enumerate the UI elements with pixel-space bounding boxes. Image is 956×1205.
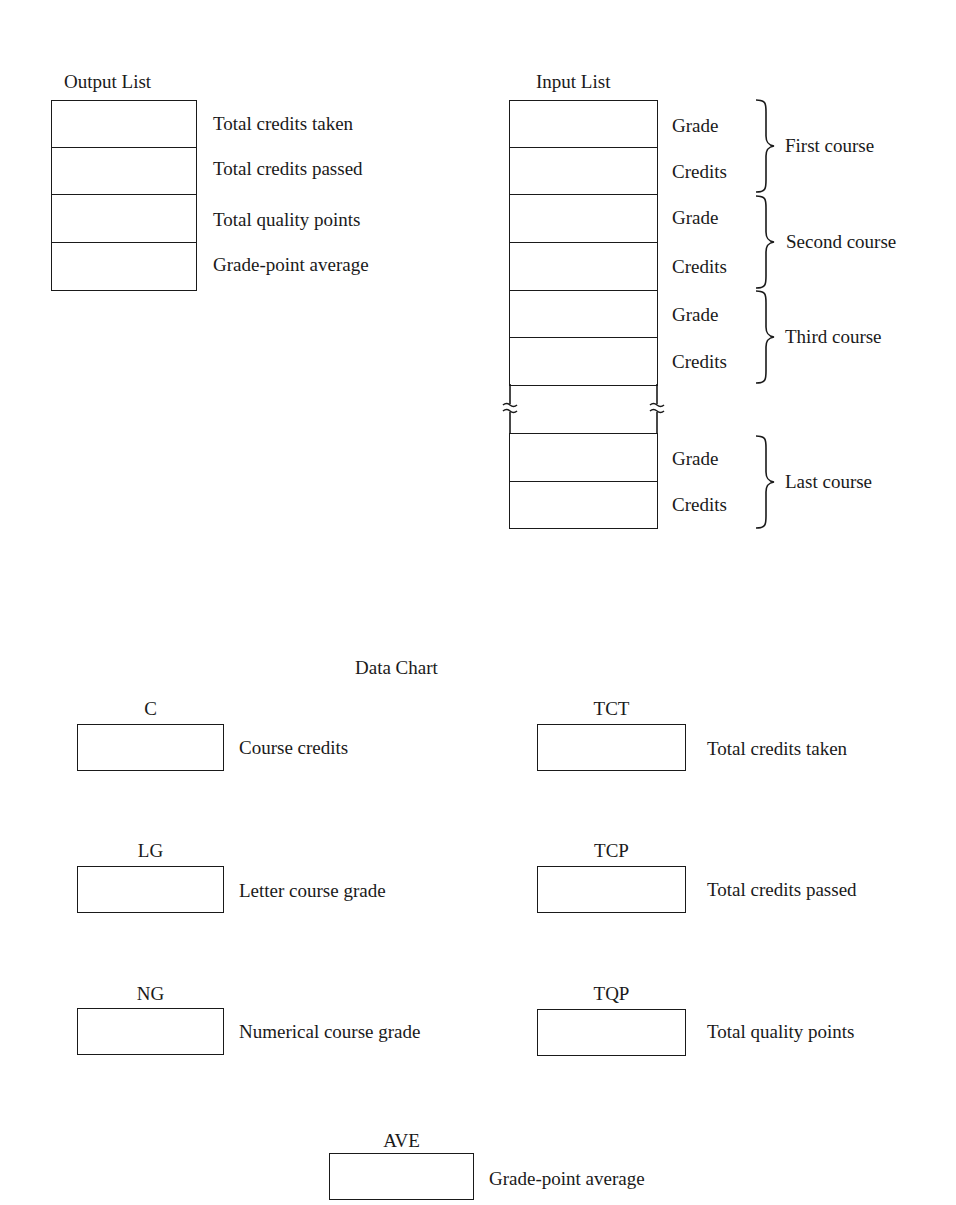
variable-name: TQP xyxy=(537,983,686,1005)
variable-name: TCT xyxy=(537,698,686,720)
output-cell-total-credits-passed xyxy=(51,147,197,195)
input-field-label: Grade xyxy=(672,304,718,326)
variable-box-lg xyxy=(77,866,224,913)
variable-box-tct xyxy=(537,724,686,771)
variable-name: C xyxy=(77,698,224,720)
variable-description: Total credits taken xyxy=(707,738,847,760)
variable-box-c xyxy=(77,724,224,771)
variable-description: Total credits passed xyxy=(707,879,857,901)
variable-description: Grade-point average xyxy=(489,1168,645,1190)
input-field-label: Credits xyxy=(672,494,727,516)
output-cell-total-quality-points xyxy=(51,194,197,243)
variable-name: NG xyxy=(77,983,224,1005)
brace-icon xyxy=(750,194,780,290)
brace-icon xyxy=(750,434,780,530)
output-label: Grade-point average xyxy=(213,254,369,276)
variable-name: AVE xyxy=(329,1130,474,1152)
input-list-title: Input List xyxy=(536,71,610,93)
input-field-label: Credits xyxy=(672,256,727,278)
input-field-label: Grade xyxy=(672,448,718,470)
output-label: Total credits passed xyxy=(213,158,363,180)
course-label: Second course xyxy=(786,231,896,253)
variable-description: Letter course grade xyxy=(239,880,386,902)
course-label: First course xyxy=(785,135,874,157)
output-label: Total credits taken xyxy=(213,113,353,135)
wavy-break-icon xyxy=(500,384,670,436)
variable-description: Course credits xyxy=(239,737,348,759)
variable-description: Total quality points xyxy=(707,1021,855,1043)
input-cell-first-grade xyxy=(509,100,658,148)
input-cell-first-credits xyxy=(509,147,658,195)
input-cell-second-credits xyxy=(509,242,658,291)
input-cell-third-credits xyxy=(509,337,658,386)
input-field-label: Grade xyxy=(672,207,718,229)
data-chart-title: Data Chart xyxy=(355,657,438,679)
input-cell-second-grade xyxy=(509,194,658,243)
course-label: Third course xyxy=(785,326,882,348)
variable-box-ave xyxy=(329,1153,474,1200)
variable-box-tqp xyxy=(537,1009,686,1056)
variable-name: TCP xyxy=(537,840,686,862)
variable-description: Numerical course grade xyxy=(239,1021,420,1043)
output-cell-grade-point-average xyxy=(51,242,197,291)
variable-name: LG xyxy=(77,840,224,862)
input-cell-last-credits xyxy=(509,481,658,529)
variable-box-ng xyxy=(77,1008,224,1055)
input-field-label: Credits xyxy=(672,161,727,183)
course-label: Last course xyxy=(785,471,872,493)
brace-icon xyxy=(750,98,780,194)
output-cell-total-credits-taken xyxy=(51,100,197,148)
output-list-title: Output List xyxy=(64,71,151,93)
input-cell-last-grade xyxy=(509,433,658,482)
brace-icon xyxy=(750,289,780,385)
input-cell-third-grade xyxy=(509,290,658,338)
variable-box-tcp xyxy=(537,866,686,913)
input-field-label: Grade xyxy=(672,115,718,137)
input-field-label: Credits xyxy=(672,351,727,373)
output-label: Total quality points xyxy=(213,209,361,231)
